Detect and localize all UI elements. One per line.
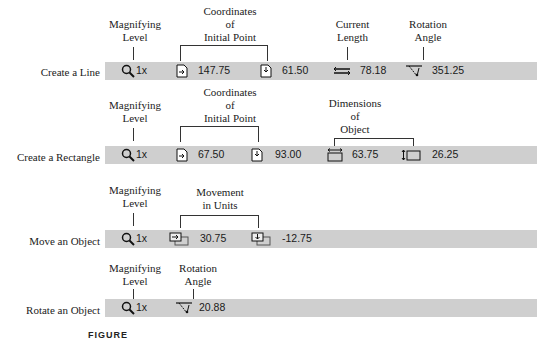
rotation-angle-value: 351.25 — [432, 64, 464, 76]
annotation-magnifying-level: Magnifying Level — [100, 262, 170, 288]
anno-line: Level — [100, 275, 170, 288]
row-label: Rotate an Object — [0, 304, 100, 316]
anno-line: Rotation — [168, 262, 228, 275]
length-value: 78.18 — [360, 64, 386, 76]
move-y-value: -12.75 — [282, 232, 312, 244]
anno-line: Angle — [168, 275, 228, 288]
move-horizontal-icon — [169, 232, 189, 246]
zoom-level: 1x — [136, 232, 147, 244]
annotation-movement: Movement in Units — [185, 186, 255, 212]
x-coordinate-value: 67.50 — [198, 148, 224, 160]
annotation-bracket — [180, 45, 268, 61]
y-coordinate-icon — [251, 148, 263, 162]
annotation-tick — [347, 47, 348, 60]
row-label: Create a Line — [0, 66, 100, 78]
x-coordinate-icon — [176, 64, 188, 78]
y-coordinate-value: 93.00 — [275, 148, 301, 160]
width-icon — [327, 148, 343, 162]
anno-line: Dimensions — [310, 97, 400, 110]
anno-line: of — [185, 18, 275, 31]
anno-line: of — [310, 110, 400, 123]
status-bar: 1x 30.75 -12.75 — [105, 230, 537, 248]
length-icon — [333, 64, 351, 78]
rotation-angle-icon — [175, 301, 193, 315]
annotation-tick — [133, 128, 134, 141]
x-coordinate-icon — [176, 148, 188, 162]
y-coordinate-icon — [260, 64, 272, 78]
magnifier-icon — [121, 64, 135, 78]
move-vertical-icon — [251, 232, 271, 246]
row-label: Move an Object — [0, 235, 100, 247]
anno-line: Current — [325, 18, 380, 31]
move-x-value: 30.75 — [200, 232, 226, 244]
annotation-rotation-angle: Rotation Angle — [168, 262, 228, 288]
annotation-bracket — [180, 215, 259, 228]
annotation-tick — [133, 213, 134, 226]
annotation-bracket — [180, 126, 259, 142]
anno-line: Magnifying — [100, 262, 170, 275]
y-coordinate-value: 61.50 — [282, 64, 308, 76]
anno-line: Magnifying — [100, 99, 170, 112]
x-coordinate-value: 147.75 — [198, 64, 230, 76]
anno-line: Movement — [185, 186, 255, 199]
anno-line: Length — [325, 31, 380, 44]
magnifier-icon — [121, 148, 135, 162]
anno-line: Level — [100, 197, 170, 210]
figure-caption: FIGURE — [88, 330, 128, 340]
status-bar: 1x 20.88 — [105, 299, 537, 317]
annotation-current-length: Current Length — [325, 18, 380, 44]
annotation-magnifying-level: Magnifying Level — [100, 184, 170, 210]
zoom-level: 1x — [136, 148, 147, 160]
magnifier-icon — [121, 301, 135, 315]
anno-line: Coordinates — [185, 5, 275, 18]
annotation-magnifying-level: Magnifying Level — [100, 18, 170, 44]
status-bar: 1x 67.50 93.00 63.75 26.25 — [105, 146, 537, 164]
zoom-level: 1x — [136, 64, 147, 76]
row-label: Create a Rectangle — [0, 151, 100, 163]
anno-line: Magnifying — [100, 18, 170, 31]
anno-line: Object — [310, 123, 400, 136]
magnifier-icon — [121, 232, 135, 246]
height-icon — [401, 148, 421, 162]
annotation-tick — [423, 47, 424, 60]
height-value: 26.25 — [432, 148, 458, 160]
anno-line: Level — [100, 31, 170, 44]
annotation-coordinates: Coordinates of Initial Point — [185, 5, 275, 44]
anno-line: Coordinates — [185, 86, 275, 99]
anno-line: in Units — [185, 199, 255, 212]
anno-line: Level — [100, 112, 170, 125]
anno-line: Angle — [398, 31, 458, 44]
anno-line: Initial Point — [185, 112, 275, 125]
zoom-level: 1x — [136, 301, 147, 313]
anno-line: Initial Point — [185, 31, 275, 44]
anno-line: Magnifying — [100, 184, 170, 197]
rotation-angle-icon — [405, 64, 423, 78]
status-bar: 1x 147.75 61.50 78.18 351.25 — [105, 62, 537, 80]
annotation-dimensions: Dimensions of Object — [310, 97, 400, 136]
annotation-magnifying-level: Magnifying Level — [100, 99, 170, 125]
width-value: 63.75 — [352, 148, 378, 160]
annotation-rotation-angle: Rotation Angle — [398, 18, 458, 44]
anno-line: Rotation — [398, 18, 458, 31]
anno-line: of — [185, 99, 275, 112]
annotation-coordinates: Coordinates of Initial Point — [185, 86, 275, 125]
rotation-angle-value: 20.88 — [199, 301, 225, 313]
annotation-tick — [133, 47, 134, 60]
